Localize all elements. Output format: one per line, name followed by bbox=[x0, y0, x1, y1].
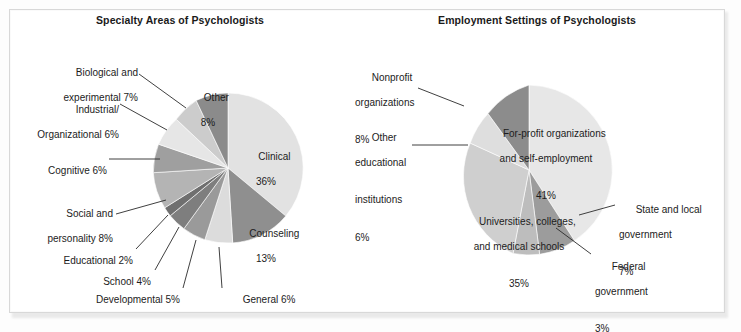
label-industrial-line2: Organizational 6% bbox=[5, 129, 119, 141]
label-clinical-name: Clinical bbox=[258, 151, 290, 162]
label-federal-line1: Federal bbox=[612, 261, 646, 272]
label-other-educational: Other educational institutions 6% bbox=[355, 120, 435, 269]
label-for-profit-pct: 41% bbox=[471, 190, 621, 202]
leader-educational bbox=[136, 215, 168, 249]
label-counseling-name: Counseling bbox=[249, 228, 299, 239]
leader-social bbox=[116, 200, 166, 214]
figure-root: Specialty Areas of Psychologists bbox=[0, 0, 741, 332]
label-state-line1: State and local bbox=[636, 204, 702, 215]
leader-developmental bbox=[183, 240, 196, 288]
label-federal-government: Federal government 3% bbox=[595, 249, 685, 332]
label-clinical-pct: 36% bbox=[229, 176, 303, 188]
label-other-educational-pct: 6% bbox=[355, 232, 435, 244]
label-for-profit-line1: For-profit organizations bbox=[503, 128, 606, 139]
chart-panel-employment-settings: Employment Settings of Psychologists bbox=[360, 0, 714, 302]
label-state-line2: government bbox=[619, 229, 711, 241]
label-for-profit-line2: and self-employment bbox=[471, 153, 621, 165]
label-other-educational-line1: Other bbox=[372, 132, 397, 143]
chart-panel-specialty-areas: Specialty Areas of Psychologists bbox=[0, 0, 360, 302]
label-industrial-line1: Industrial/ bbox=[76, 104, 119, 115]
leader-school bbox=[155, 227, 179, 270]
label-universities: Universities, colleges, and medical scho… bbox=[444, 204, 594, 316]
label-nonprofit-line2: organizations bbox=[355, 97, 440, 109]
label-other: Other 8% bbox=[178, 80, 238, 154]
label-other-pct: 8% bbox=[178, 117, 238, 129]
label-biological-line1: Biological and bbox=[76, 67, 138, 78]
label-universities-line1: Universities, colleges, bbox=[479, 216, 576, 227]
label-developmental: Developmental 5% bbox=[69, 282, 180, 319]
label-developmental-text: Developmental 5% bbox=[96, 294, 180, 305]
label-other-name: Other bbox=[204, 92, 229, 103]
label-federal-pct: 3% bbox=[595, 323, 685, 332]
label-general: General 6% bbox=[226, 282, 316, 319]
label-other-educational-line2: educational bbox=[355, 157, 435, 169]
label-federal-line2: government bbox=[595, 286, 685, 298]
leader-general bbox=[219, 247, 222, 288]
label-other-educational-line3: institutions bbox=[355, 194, 435, 206]
label-universities-pct: 35% bbox=[444, 278, 594, 290]
label-universities-line2: and medical schools bbox=[444, 241, 594, 253]
label-general-text: General 6% bbox=[243, 294, 296, 305]
label-cognitive: Cognitive 6% bbox=[12, 153, 107, 190]
label-social-line1: Social and bbox=[66, 208, 113, 219]
label-cognitive-text: Cognitive 6% bbox=[48, 165, 107, 176]
label-nonprofit-line1: Nonprofit bbox=[372, 72, 413, 83]
label-counseling: Counseling 13% bbox=[229, 216, 303, 290]
label-clinical: Clinical 36% bbox=[229, 139, 303, 213]
label-counseling-pct: 13% bbox=[229, 253, 303, 265]
